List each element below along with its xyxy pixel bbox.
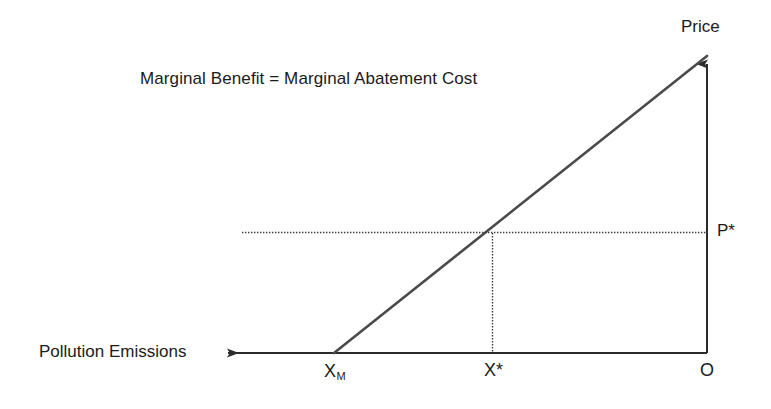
price-axis-label: Price [681, 18, 720, 35]
marginal-benefit-curve [334, 56, 707, 353]
x-m-base: X [324, 361, 336, 381]
price-star-label: P* [717, 222, 735, 239]
origin-label: O [700, 361, 714, 379]
x-m-subscript: M [337, 370, 346, 382]
x-star-label: X* [484, 361, 503, 379]
x-m-label: XM [324, 362, 345, 380]
diagram-title: Marginal Benefit = Marginal Abatement Co… [140, 70, 477, 87]
economics-diagram: Price Marginal Benefit = Marginal Abatem… [0, 0, 771, 409]
emissions-axis-label: Pollution Emissions [39, 343, 186, 360]
